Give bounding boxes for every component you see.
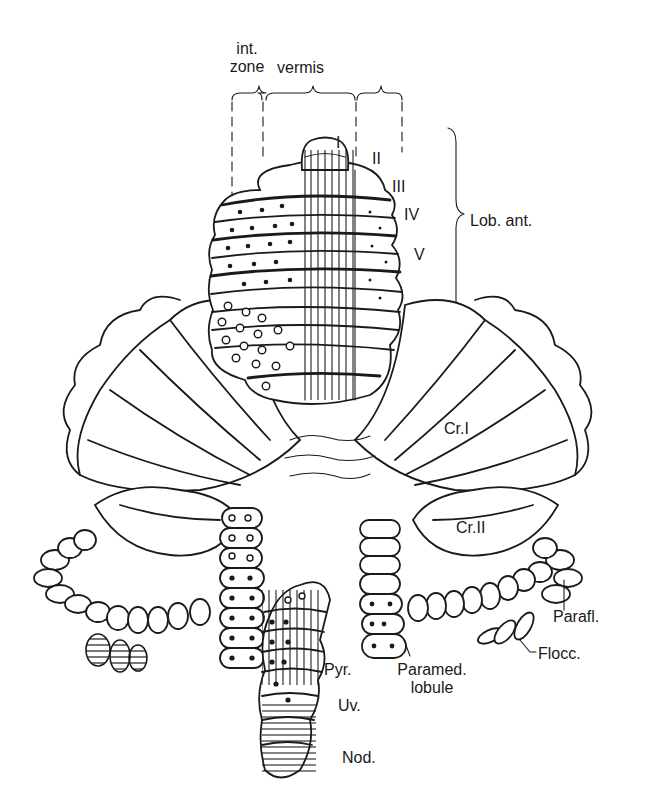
label-flocc: Flocc.	[538, 645, 581, 663]
label-lobule-iv: IV	[404, 206, 419, 224]
label-lobule-iii: III	[392, 178, 405, 196]
label-uv: Uv.	[338, 697, 361, 715]
label-pyr: Pyr.	[324, 661, 352, 679]
label-cr-ii: Cr.II	[456, 519, 485, 537]
label-int-zone-line2: zone	[220, 58, 274, 76]
label-paramed-lobule: Paramed. lobule	[390, 661, 474, 697]
label-lobule-ii: II	[372, 150, 381, 168]
label-int-zone: int. zone	[220, 40, 274, 76]
label-lob-ant: Lob. ant.	[470, 212, 532, 230]
paramedian-lobule-left	[220, 508, 264, 668]
paramedian-lobule-right	[360, 520, 406, 658]
label-paramed-line2: lobule	[390, 679, 474, 697]
label-vermis: vermis	[277, 59, 324, 77]
cerebellum-drawing	[0, 0, 653, 812]
posterior-vermis	[259, 582, 330, 777]
label-int-zone-line1: int.	[220, 40, 274, 58]
label-nod: Nod.	[342, 749, 376, 767]
label-cr-i: Cr.I	[444, 420, 469, 438]
label-lobule-i: I	[336, 134, 340, 152]
cerebellum-diagram: int. zone vermis I II III IV V Lob. ant.…	[0, 0, 653, 812]
anterior-lobe-vermis	[209, 138, 403, 405]
label-paramed-line1: Paramed.	[390, 661, 474, 679]
hemisphere-crus-ii	[95, 487, 558, 555]
label-parafl: Parafl.	[553, 608, 599, 626]
label-lobule-v: V	[414, 246, 425, 264]
